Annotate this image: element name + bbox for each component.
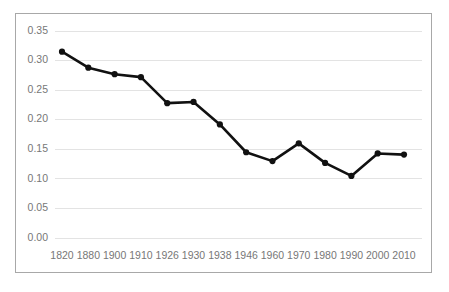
x-axis-tick-label: 1960 (261, 249, 285, 261)
data-point-marker (348, 173, 354, 179)
x-axis-tick-label: 1910 (129, 249, 153, 261)
data-point-marker (269, 158, 275, 164)
x-axis-tick-label: 1930 (182, 249, 206, 261)
gridlines-group (55, 31, 422, 238)
y-axis-tick-label: 0.05 (28, 201, 49, 213)
x-axis-tick-label: 1938 (208, 249, 232, 261)
x-axis-tick-labels: 1820188019001910192619301938194619601970… (50, 249, 416, 261)
data-point-marker (401, 152, 407, 158)
y-axis-tick-label: 0.35 (28, 24, 49, 36)
x-axis-tick-label: 1820 (50, 249, 74, 261)
x-axis-tick-label: 2010 (392, 249, 416, 261)
x-axis-tick-label: 1990 (340, 249, 364, 261)
x-axis-tick-label: 1946 (234, 249, 258, 261)
data-point-marker (375, 150, 381, 156)
y-axis-tick-label: 0.15 (28, 142, 49, 154)
data-point-marker (138, 74, 144, 80)
x-axis-tick-label: 1900 (103, 249, 127, 261)
data-point-marker (59, 49, 65, 55)
x-axis-tick-label: 2000 (366, 249, 390, 261)
data-point-marker (217, 121, 223, 127)
data-point-marker (190, 99, 196, 105)
data-point-marker (243, 149, 249, 155)
y-axis-tick-label: 0.10 (28, 172, 49, 184)
data-point-marker (85, 65, 91, 71)
chart-canvas: 0.000.050.100.150.200.250.300.35 1820188… (0, 0, 449, 292)
line-chart-figure: 0.000.050.100.150.200.250.300.35 1820188… (0, 0, 449, 292)
data-point-marker (322, 160, 328, 166)
y-axis-tick-label: 0.30 (28, 53, 49, 65)
data-point-marker (112, 71, 118, 77)
x-axis-tick-label: 1880 (77, 249, 101, 261)
data-series-group (59, 49, 407, 179)
series-line (62, 52, 404, 176)
data-point-marker (164, 100, 170, 106)
y-axis-tick-label: 0.25 (28, 83, 49, 95)
x-axis-tick-label: 1980 (313, 249, 337, 261)
y-axis-tick-label: 0.20 (28, 112, 49, 124)
x-axis-tick-label: 1970 (287, 249, 311, 261)
x-axis-tick-label: 1926 (156, 249, 180, 261)
y-axis-tick-labels: 0.000.050.100.150.200.250.300.35 (28, 24, 49, 243)
data-point-marker (296, 140, 302, 146)
y-axis-tick-label: 0.00 (28, 231, 49, 243)
